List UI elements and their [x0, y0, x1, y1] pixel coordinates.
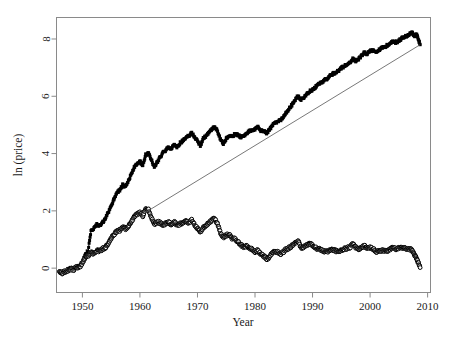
- data-point: [128, 177, 131, 180]
- y-tick-label: 8: [40, 36, 52, 42]
- y-tick-label: 4: [40, 150, 52, 156]
- chart-canvas: 02468 1950196019701980199020002010 Year …: [0, 0, 456, 340]
- data-point: [88, 242, 91, 245]
- data-point: [89, 236, 92, 239]
- figure-background: [0, 0, 456, 340]
- data-point: [418, 266, 422, 270]
- y-tick-label: 2: [40, 208, 52, 214]
- data-point: [139, 160, 142, 163]
- x-tick-label: 1970: [186, 300, 209, 312]
- data-point: [218, 134, 221, 137]
- data-point: [141, 164, 144, 167]
- y-tick-label: 6: [40, 93, 52, 99]
- chart-figure: 02468 1950196019701980199020002010 Year …: [0, 0, 456, 340]
- y-tick-label: 0: [40, 265, 52, 271]
- x-axis-title: Year: [232, 316, 253, 328]
- x-tick-label: 1980: [244, 300, 267, 312]
- x-tick-label: 2000: [359, 300, 382, 312]
- x-tick-label: 1960: [129, 300, 152, 312]
- y-axis-title: ln (price): [12, 134, 25, 177]
- x-tick-label: 2010: [417, 300, 440, 312]
- data-point: [418, 40, 421, 43]
- x-tick-label: 1990: [302, 300, 325, 312]
- data-point: [87, 246, 90, 249]
- x-tick-label: 1950: [71, 300, 94, 312]
- data-point: [88, 239, 91, 242]
- data-point: [89, 233, 92, 236]
